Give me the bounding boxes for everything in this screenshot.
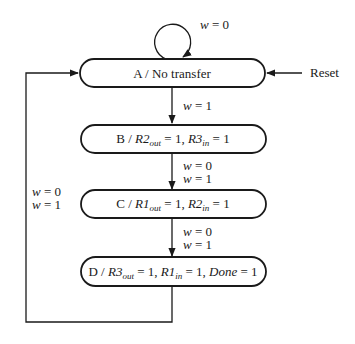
state-D-label: D / R3out = 1, R1in = 1, Done = 1 [88, 264, 257, 281]
state-diagram: w = 0 A / No transfer Reset w = 1 B / R2… [0, 0, 355, 344]
condition-B-C-1: w = 1 [183, 171, 212, 186]
self-loop-arrow [155, 24, 191, 59]
condition-D-A-1: w = 1 [32, 197, 61, 212]
state-C: C / R1out = 1, R2in = 1 [81, 190, 266, 218]
condition-A-B: w = 1 [183, 98, 212, 113]
transition-A-B: w = 1 [172, 87, 212, 123]
transition-B-C: w = 0 w = 1 [172, 153, 212, 189]
loop-condition-label: w = 0 [200, 17, 229, 32]
state-D: D / R3out = 1, R1in = 1, Done = 1 [81, 257, 266, 286]
state-C-label: C / R1out = 1, R2in = 1 [116, 196, 229, 213]
transition-C-D: w = 0 w = 1 [172, 218, 212, 256]
state-B-label: B / R2out = 1, R3in = 1 [116, 131, 229, 148]
transition-A-A: w = 0 [155, 17, 229, 59]
reset-label: Reset [310, 65, 339, 80]
state-A: A / No transfer [80, 59, 265, 87]
state-A-label: A / No transfer [133, 66, 211, 81]
reset-transition: Reset [267, 65, 339, 80]
state-B: B / R2out = 1, R3in = 1 [81, 125, 266, 153]
condition-C-D-1: w = 1 [183, 237, 212, 252]
